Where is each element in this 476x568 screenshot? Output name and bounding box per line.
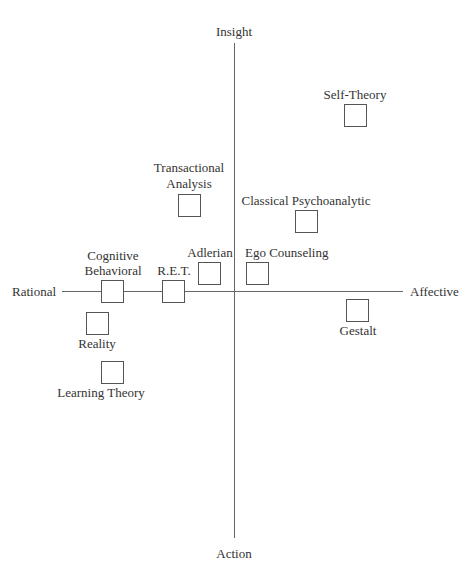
node-self-theory xyxy=(344,104,367,127)
axis-label-affective: Affective xyxy=(410,284,459,299)
label-ret: R.E.T. xyxy=(157,263,190,278)
label-adlerian: Adlerian xyxy=(187,245,232,260)
label-reality: Reality xyxy=(78,336,116,351)
label-ego-counseling: Ego Counseling xyxy=(245,245,328,260)
node-reality xyxy=(86,312,109,335)
node-adlerian xyxy=(198,262,221,285)
node-transactional-analysis xyxy=(178,194,201,217)
axis-label-action: Action xyxy=(216,546,251,561)
label-transactional-analysis-2: Analysis xyxy=(166,176,212,191)
node-gestalt xyxy=(346,299,369,322)
label-cognitive-behavioral-1: Cognitive xyxy=(87,248,138,263)
node-ego-counseling xyxy=(246,262,269,285)
label-self-theory: Self-Theory xyxy=(324,87,387,102)
axis-label-rational: Rational xyxy=(12,284,56,299)
node-learning-theory xyxy=(101,361,124,384)
label-classical-psychoanalytic: Classical Psychoanalytic xyxy=(242,193,371,208)
label-learning-theory: Learning Theory xyxy=(57,385,144,400)
node-classical-psychoanalytic xyxy=(295,210,318,233)
node-cognitive-behavioral xyxy=(101,280,124,303)
label-transactional-analysis-1: Transactional xyxy=(154,160,224,175)
label-gestalt: Gestalt xyxy=(340,323,377,338)
node-ret xyxy=(162,280,185,303)
label-cognitive-behavioral-2: Behavioral xyxy=(84,263,141,278)
axis-label-insight: Insight xyxy=(216,24,252,39)
